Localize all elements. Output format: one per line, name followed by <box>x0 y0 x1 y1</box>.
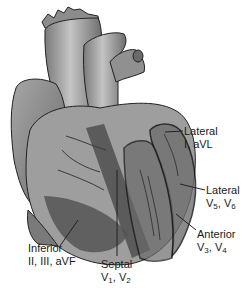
label-title: Lateral <box>206 184 240 197</box>
label-leads: I, aVL <box>184 138 218 151</box>
label-leads: V5, V6 <box>206 197 240 210</box>
label-title: Inferior <box>28 242 76 255</box>
heart-diagram: Lateral I, aVL Lateral V5, V6 Anterior V… <box>0 0 243 288</box>
label-title: Anterior <box>197 228 236 241</box>
label-septal: Septal V1, V2 <box>101 258 132 284</box>
label-anterior: Anterior V3, V4 <box>197 228 236 254</box>
label-title: Septal <box>101 258 132 271</box>
label-leads: V3, V4 <box>197 241 236 254</box>
label-leads: V1, V2 <box>101 271 132 284</box>
label-leads: II, III, aVF <box>28 255 76 268</box>
label-title: Lateral <box>184 125 218 138</box>
label-lateral-low: Lateral V5, V6 <box>206 184 240 210</box>
label-lateral-high: Lateral I, aVL <box>184 125 218 151</box>
label-inferior: Inferior II, III, aVF <box>28 242 76 268</box>
